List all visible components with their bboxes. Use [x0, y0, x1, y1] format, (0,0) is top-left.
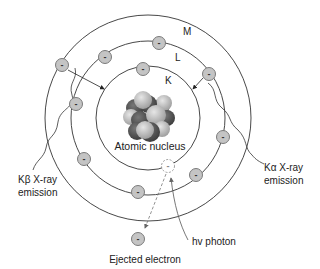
ejected-electron: -: [132, 233, 145, 246]
svg-text:-: -: [75, 99, 78, 109]
electron-l-4: -: [70, 98, 83, 111]
kalpha-emission-wave: [208, 83, 264, 164]
electron-l-5: -: [78, 153, 91, 166]
electron-k-1: -: [137, 63, 150, 76]
photon-path-arrow: [171, 178, 188, 240]
electron-l-6: -: [132, 186, 145, 199]
shell-label-k: K: [165, 75, 172, 86]
svg-text:-: -: [208, 69, 211, 79]
kbeta-label-line2: emission: [18, 187, 57, 198]
electron-l-7: -: [190, 169, 203, 182]
svg-text:-: -: [167, 161, 170, 171]
electron-m-right: -: [217, 131, 230, 144]
kalpha-label-line2: emission: [264, 175, 303, 186]
photon-label: hv photon: [192, 236, 236, 247]
electron-l-1: -: [99, 51, 112, 64]
l-to-k-transition-arrow: [193, 78, 203, 89]
electron-l-2: -: [153, 37, 166, 50]
nucleus-label: Atomic nucleus: [114, 140, 185, 152]
svg-text:-: -: [104, 52, 107, 62]
svg-text:-: -: [222, 132, 225, 142]
kalpha-label-line1: Kα X-ray: [264, 162, 303, 173]
ejected-electron-label: Ejected electron: [109, 254, 181, 265]
atom-diagram: M L K Atomic nucleus - - - - - - - - - -…: [0, 0, 320, 269]
shell-label-l: L: [175, 52, 181, 63]
electron-m-left: -: [56, 59, 69, 72]
nucleus-icon: [123, 91, 175, 142]
svg-text:-: -: [61, 60, 64, 70]
shell-label-m: M: [183, 26, 191, 37]
k-vacancy: -: [162, 160, 175, 173]
svg-text:-: -: [195, 170, 198, 180]
svg-text:-: -: [142, 64, 145, 74]
kbeta-label-line1: Kβ X-ray: [18, 174, 57, 185]
svg-text:-: -: [137, 234, 140, 244]
svg-text:-: -: [83, 154, 86, 164]
kbeta-emission-wave: [33, 68, 76, 170]
svg-text:-: -: [137, 187, 140, 197]
svg-text:-: -: [158, 38, 161, 48]
electron-l-3: -: [203, 68, 216, 81]
